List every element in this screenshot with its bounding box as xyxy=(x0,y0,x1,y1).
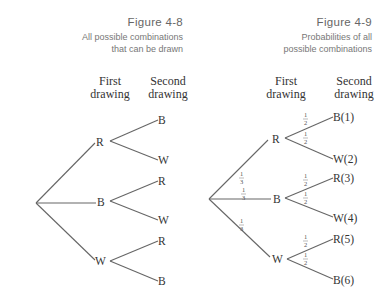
probability-label: 1 2 xyxy=(303,251,308,266)
svg-text:3: 3 xyxy=(240,225,243,232)
probability-label: 1 3 xyxy=(239,217,244,232)
probability-label: 1 2 xyxy=(303,233,308,248)
node-label: B xyxy=(158,275,166,287)
svg-text:1: 1 xyxy=(240,170,243,177)
node-label: R xyxy=(158,235,166,247)
node-label: W xyxy=(158,154,169,166)
node-label: B(6) xyxy=(333,274,354,287)
svg-text:1: 1 xyxy=(304,111,307,118)
svg-text:2: 2 xyxy=(304,119,307,126)
svg-text:2: 2 xyxy=(304,138,307,145)
node-label: W(4) xyxy=(333,212,357,225)
node-label: R xyxy=(96,136,104,148)
svg-text:2: 2 xyxy=(304,241,307,248)
probability-label: 1 2 xyxy=(303,111,308,126)
svg-text:3: 3 xyxy=(240,178,243,185)
node-label: W(2) xyxy=(333,153,357,166)
tree-figure-4-9: R B W B(1) W(2) R(3) W(4) R(5) B(6) 1 3 … xyxy=(209,111,357,287)
svg-text:1: 1 xyxy=(304,251,307,258)
node-label: B xyxy=(97,196,105,208)
tree-figure-4-8: R B W B W R W R B xyxy=(36,114,169,287)
svg-text:2: 2 xyxy=(304,259,307,266)
node-label: R(3) xyxy=(333,172,354,185)
node-label: W xyxy=(158,214,169,226)
probability-label: 1 2 xyxy=(303,172,308,187)
svg-text:1: 1 xyxy=(304,172,307,179)
svg-text:3: 3 xyxy=(242,194,245,201)
node-label: B xyxy=(273,193,281,205)
node-label: R xyxy=(158,175,166,187)
node-label: R xyxy=(272,133,280,145)
tree-diagrams: R B W B W R W R B R B W B(1) W(2) R(3) W… xyxy=(0,0,386,306)
svg-text:1: 1 xyxy=(242,186,245,193)
probability-label: 1 2 xyxy=(303,190,308,205)
probability-label: 1 3 xyxy=(239,170,244,185)
svg-text:1: 1 xyxy=(304,130,307,137)
svg-text:2: 2 xyxy=(304,180,307,187)
node-label: B(1) xyxy=(333,111,354,124)
node-label: W xyxy=(272,253,283,265)
svg-text:1: 1 xyxy=(304,190,307,197)
probability-label: 1 2 xyxy=(303,130,308,145)
node-label: R(5) xyxy=(333,233,354,246)
node-label: W xyxy=(95,255,106,267)
svg-text:1: 1 xyxy=(304,233,307,240)
svg-text:2: 2 xyxy=(304,198,307,205)
svg-text:1: 1 xyxy=(240,217,243,224)
node-label: B xyxy=(158,114,166,126)
